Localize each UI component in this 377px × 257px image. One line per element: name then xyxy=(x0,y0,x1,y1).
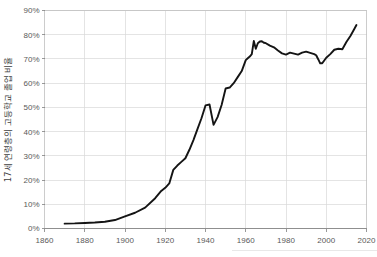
y-tick-label: 90% xyxy=(23,6,39,15)
x-tick-label: 1980 xyxy=(277,236,295,245)
y-tick-label: 30% xyxy=(23,152,39,161)
x-tick-label: 1920 xyxy=(156,236,174,245)
y-axis-label-text: 17세 연령층의 고등학교 졸업 비율 xyxy=(3,57,13,183)
x-tick-label: 1960 xyxy=(237,236,255,245)
y-tick-label: 20% xyxy=(23,176,39,185)
x-tick-label: 1880 xyxy=(76,236,94,245)
y-tick-label: 50% xyxy=(23,103,39,112)
chart-background xyxy=(0,0,377,257)
chart-container: 0%10%20%30%40%50%60%70%80%90% 1860188019… xyxy=(0,0,377,257)
x-tick-label: 1940 xyxy=(197,236,215,245)
y-tick-label: 0% xyxy=(28,224,40,233)
y-tick-label: 40% xyxy=(23,128,39,137)
x-tick-label: 2000 xyxy=(317,236,335,245)
y-tick-label: 80% xyxy=(23,31,39,40)
y-tick-label: 70% xyxy=(23,55,39,64)
y-tick-label: 10% xyxy=(23,200,39,209)
y-axis-title: 17세 연령층의 고등학교 졸업 비율 xyxy=(3,57,13,183)
x-tick-label: 1900 xyxy=(116,236,134,245)
line-chart: 0%10%20%30%40%50%60%70%80%90% 1860188019… xyxy=(0,0,377,257)
x-tick-label: 2020 xyxy=(358,236,376,245)
x-tick-label: 1860 xyxy=(36,236,54,245)
y-tick-label: 60% xyxy=(23,79,39,88)
